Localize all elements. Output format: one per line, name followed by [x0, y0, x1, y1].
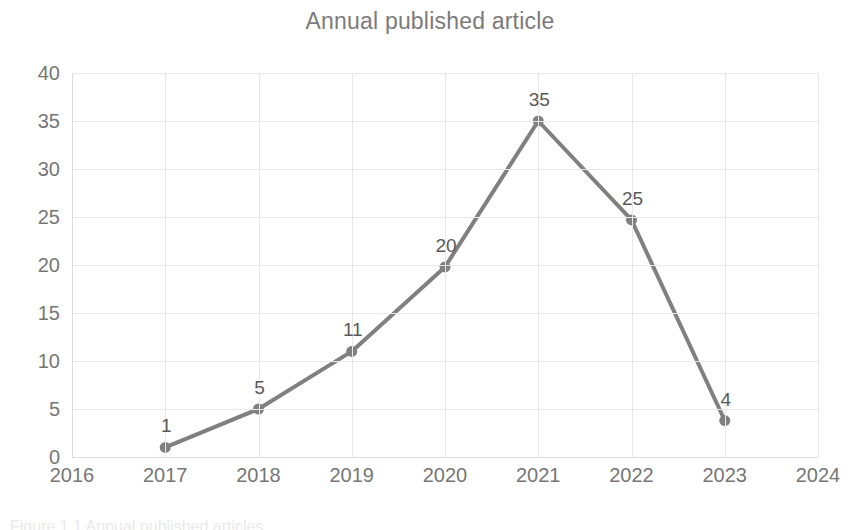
data-point-label: 5: [254, 377, 265, 399]
x-axis-tick-label: 2017: [120, 464, 210, 487]
data-point-label: 20: [435, 235, 456, 257]
line-chart-figure: Annual published article 051015202530354…: [0, 0, 860, 530]
x-axis-tick-label: 2019: [307, 464, 397, 487]
data-point-label: 25: [622, 188, 643, 210]
grid-line-vertical: [259, 73, 260, 457]
x-axis-tick-label: 2022: [587, 464, 677, 487]
x-axis-tick-labels: 201620172018201920202021202220232024: [72, 464, 818, 498]
y-axis-tick-label: 20: [6, 254, 60, 277]
x-axis-tick-label: 2020: [400, 464, 490, 487]
data-point-label: 1: [161, 415, 172, 437]
x-axis-tick-label: 2023: [680, 464, 770, 487]
bottom-caption-clipped: Figure 1.1 Annual published articles: [10, 518, 570, 530]
x-axis-tick-label: 2021: [493, 464, 583, 487]
data-point-label: 4: [720, 389, 731, 411]
plot-area: 15112035254: [72, 73, 818, 457]
grid-line-vertical: [632, 73, 633, 457]
x-axis-tick-label: 2024: [773, 464, 860, 487]
grid-line-vertical: [72, 73, 73, 457]
y-axis-tick-label: 5: [6, 398, 60, 421]
y-axis-tick-label: 25: [6, 206, 60, 229]
y-axis-tick-labels: 0510152025303540: [0, 73, 60, 457]
y-axis-tick-label: 30: [6, 158, 60, 181]
grid-line-vertical: [818, 73, 819, 457]
data-point-label: 11: [343, 319, 363, 341]
x-axis-tick-label: 2018: [214, 464, 304, 487]
data-point-label: 35: [529, 89, 550, 111]
chart-title: Annual published article: [0, 8, 860, 35]
y-axis-tick-label: 15: [6, 302, 60, 325]
y-axis-tick-label: 40: [6, 62, 60, 85]
y-axis-tick-label: 10: [6, 350, 60, 373]
grid-line-vertical: [538, 73, 539, 457]
grid-line-vertical: [445, 73, 446, 457]
grid-line-vertical: [165, 73, 166, 457]
x-axis-tick-label: 2016: [27, 464, 117, 487]
grid-line-vertical: [352, 73, 353, 457]
grid-line-horizontal: [72, 457, 818, 458]
y-axis-tick-label: 35: [6, 110, 60, 133]
